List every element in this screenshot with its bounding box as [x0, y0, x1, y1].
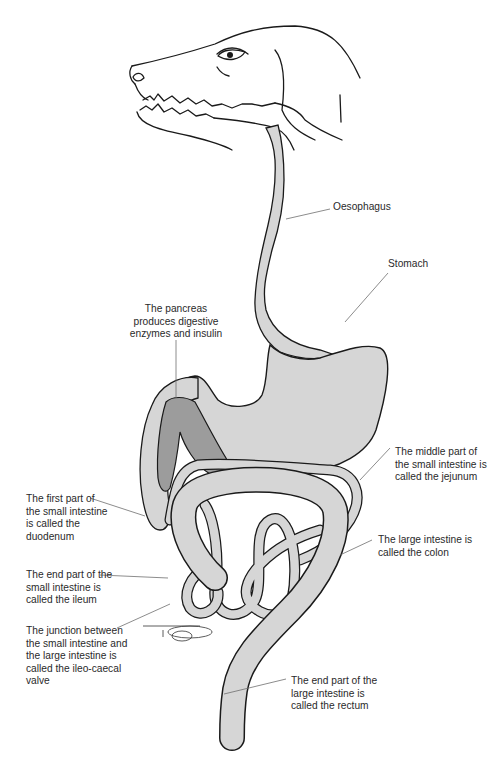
label-stomach: Stomach [388, 258, 428, 271]
label-rectum: The end part of the large intestine is c… [291, 675, 377, 713]
label-ileum: The end part of the small intestine is c… [26, 569, 112, 607]
label-duodenum: The first part of the small intestine is… [26, 493, 108, 543]
label-ileo-caecal-valve: The junction between the small intestine… [26, 625, 127, 688]
label-colon: The large intestine is called the colon [378, 534, 472, 559]
dog-eye [227, 52, 233, 58]
oesophagus [255, 125, 338, 359]
label-pancreas: The pancreas produces digestive enzymes … [128, 303, 224, 341]
artist-signature [143, 626, 212, 641]
label-oesophagus: Oesophagus [333, 201, 391, 214]
dog-head [130, 26, 360, 150]
label-jejunum: The middle part of the small intestine i… [395, 446, 487, 484]
